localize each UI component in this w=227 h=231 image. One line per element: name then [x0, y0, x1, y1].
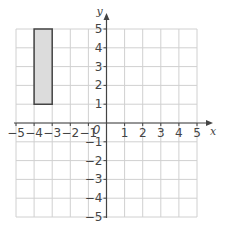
x-tick-label: 4 — [175, 126, 183, 140]
y-tick-label: 1 — [95, 97, 103, 111]
y-axis-arrow-icon — [104, 13, 110, 20]
x-tick-label: 3 — [157, 126, 165, 140]
y-tick-label: −5 — [85, 210, 103, 224]
x-tick-label: 1 — [121, 126, 129, 140]
coordinate-grid-diagram: −5−4−3−2−11234554321−1−2−3−4−50xy — [0, 0, 227, 231]
origin-label: 0 — [93, 123, 101, 137]
y-tick-label: 4 — [95, 41, 103, 55]
rectangle-shape — [34, 29, 52, 104]
x-tick-label: −2 — [61, 126, 79, 140]
x-axis-label: x — [210, 125, 217, 138]
y-tick-label: −4 — [85, 191, 103, 205]
y-tick-label: 2 — [95, 78, 103, 92]
x-tick-label: −4 — [25, 126, 43, 140]
x-tick-label: 2 — [139, 126, 147, 140]
y-tick-label: −2 — [85, 154, 103, 168]
x-tick-label: −5 — [7, 126, 25, 140]
x-tick-label: 5 — [193, 126, 201, 140]
y-tick-label: 3 — [95, 60, 103, 74]
y-axis-label: y — [96, 5, 104, 18]
y-tick-label: −3 — [85, 172, 103, 186]
x-tick-label: −3 — [43, 126, 61, 140]
grid-svg: −5−4−3−2−11234554321−1−2−3−4−50xy — [0, 0, 227, 231]
y-tick-label: 5 — [95, 22, 103, 36]
shapes — [34, 29, 52, 104]
